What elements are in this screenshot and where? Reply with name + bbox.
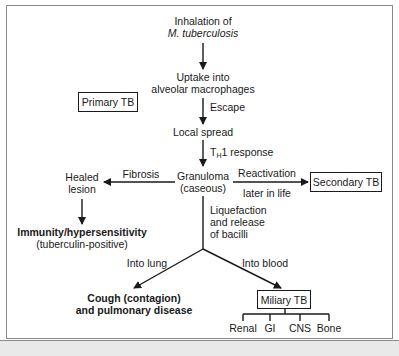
- node-immunity-line2: (tuberculin-positive): [36, 238, 128, 250]
- node-uptake-line1: Uptake into: [176, 71, 229, 83]
- edge-label-into-lung: Into lung: [127, 257, 167, 269]
- site-bone: Bone: [317, 322, 342, 334]
- site-cns: CNS: [289, 322, 311, 334]
- edge-label-into-blood: Into blood: [242, 257, 288, 269]
- node-inhalation-line1: Inhalation of: [174, 15, 231, 27]
- node-healed-line1: Healed: [65, 171, 98, 183]
- edge-label-later-in-life: later in life: [243, 187, 291, 199]
- box-secondary-tb: Secondary TB: [310, 172, 382, 192]
- primary-tb-label: Primary TB: [82, 96, 134, 108]
- site-gi: GI: [264, 322, 275, 334]
- edge-label-fibrosis: Fibrosis: [123, 168, 160, 180]
- node-healed-line2: lesion: [68, 183, 95, 195]
- miliary-tb-label: Miliary TB: [261, 294, 307, 306]
- node-granuloma-line1: Granuloma: [177, 170, 229, 182]
- node-cough-line1: Cough (contagion): [87, 292, 180, 304]
- node-uptake-line2: alveolar macrophages: [151, 83, 254, 95]
- node-immunity-line1: Immunity/hypersensitivity: [17, 226, 147, 238]
- box-primary-tb: Primary TB: [78, 92, 138, 112]
- site-renal: Renal: [229, 322, 256, 334]
- box-miliary-tb: Miliary TB: [257, 290, 311, 309]
- edge-label-liquefaction-3: of bacilli: [210, 228, 248, 240]
- node-granuloma-line2: (caseous): [180, 182, 226, 194]
- edge-label-liquefaction-1: Liquefaction: [210, 204, 267, 216]
- edge-label-th1-response: TH1 response: [210, 146, 273, 158]
- edge-label-escape: Escape: [210, 101, 245, 113]
- node-cough-line2: and pulmonary disease: [76, 304, 193, 316]
- edge-label-liquefaction-2: and release: [210, 216, 265, 228]
- node-local-spread: Local spread: [173, 126, 233, 138]
- node-inhalation-organism: M. tuberculosis: [168, 27, 239, 39]
- edge-label-reactivation: Reactivation: [238, 167, 296, 179]
- secondary-tb-label: Secondary TB: [313, 176, 379, 188]
